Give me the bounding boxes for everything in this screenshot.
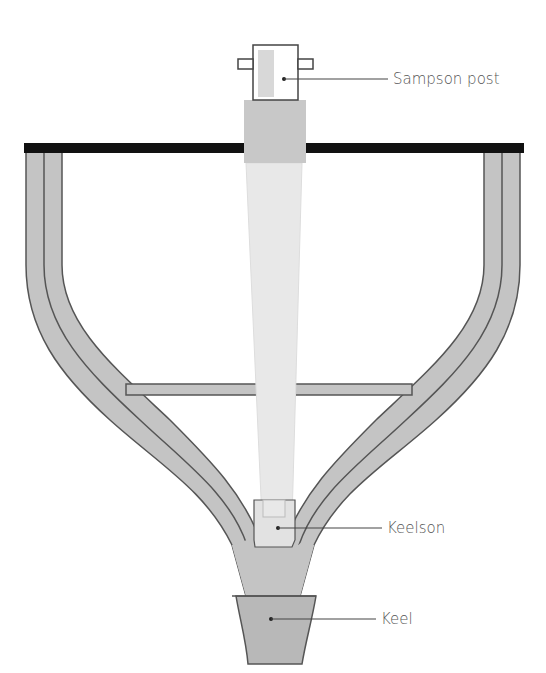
sampson-post-collar [244, 100, 306, 163]
mast [246, 163, 302, 520]
keel [236, 596, 316, 664]
sampson-post [238, 45, 313, 100]
hull-diagram: Sampson post Keelson Keel [0, 0, 546, 673]
callout-sampson-post: Sampson post [282, 70, 500, 88]
label-keelson: Keelson [387, 519, 445, 537]
label-keel: Keel [381, 610, 413, 628]
label-sampson-post: Sampson post [393, 70, 500, 88]
mast-step [263, 500, 285, 517]
